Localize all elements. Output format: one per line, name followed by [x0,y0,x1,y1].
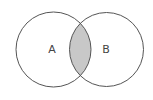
set-b-label: B [102,43,110,56]
venn-diagram: A B [0,0,153,100]
set-a-label: A [48,43,56,56]
